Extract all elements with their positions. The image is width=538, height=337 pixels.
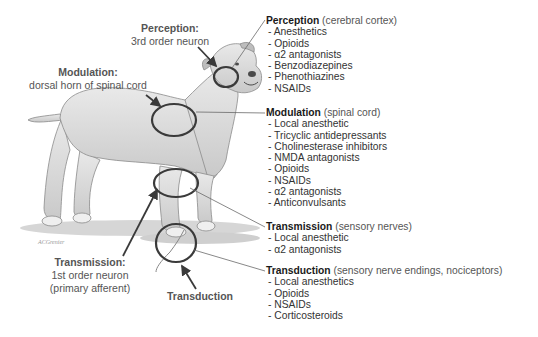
transmission-label-subtitle-2: (primary afferent) — [50, 282, 130, 294]
drug-item: - Local anesthetic — [268, 118, 387, 129]
drug-item: - Opioids — [268, 38, 397, 49]
transmission-label-subtitle-1: 1st order neuron — [51, 269, 128, 281]
drug-item: - Opioids — [268, 163, 387, 174]
drug-block-perception: Perception (cerebral cortex) - Anestheti… — [266, 15, 397, 94]
drug-item: - α2 antagonists — [268, 49, 397, 60]
drug-item: - α2 antagonists — [268, 244, 412, 255]
drug-item: - NSAIDs — [268, 175, 387, 186]
drug-item: - Anticonvulsants — [268, 197, 387, 208]
drug-item: - NSAIDs — [268, 299, 502, 310]
modulation-label-subtitle: dorsal horn of spinal cord — [29, 79, 147, 91]
transduction-arrow — [182, 266, 196, 289]
perception-label-title: Perception: — [120, 22, 220, 35]
drug-list: - Local anesthetics - Opioids - NSAIDs -… — [266, 276, 502, 321]
drug-item: - Local anesthetics — [268, 276, 502, 287]
drug-block-heading: Transduction (sensory nerve endings, noc… — [266, 265, 502, 276]
drug-block-heading: Modulation (spinal cord) — [266, 107, 387, 118]
drug-item: - Phenothiazines — [268, 71, 397, 82]
transmission-label-title: Transmission: — [40, 256, 140, 269]
drug-block-heading: Perception (cerebral cortex) — [266, 15, 397, 26]
drug-item: - Opioids — [268, 288, 502, 299]
drug-item: - Corticosteroids — [268, 310, 502, 321]
perception-label: Perception: 3rd order neuron — [120, 22, 220, 48]
drug-list: - Anesthetics - Opioids - α2 antagonists… — [266, 26, 397, 94]
drug-item: - Local anesthetic — [268, 232, 412, 243]
drug-item: - NMDA antagonists — [268, 152, 387, 163]
transduction-label: Transduction — [160, 290, 240, 303]
modulation-label-title: Modulation: — [18, 66, 158, 79]
drug-block-heading: Transmission (sensory nerves) — [266, 221, 412, 232]
drug-item: - NSAIDs — [268, 83, 397, 94]
modulation-label: Modulation: dorsal horn of spinal cord — [18, 66, 158, 92]
drug-block-transmission: Transmission (sensory nerves) - Local an… — [266, 221, 412, 255]
drug-item: - Anesthetics — [268, 26, 397, 37]
drug-item: - Tricyclic antidepressants — [268, 130, 387, 141]
drug-item: - Cholinesterase inhibitors — [268, 141, 387, 152]
drug-item: - α2 antagonists — [268, 186, 387, 197]
drug-block-modulation: Modulation (spinal cord) - Local anesthe… — [266, 107, 387, 209]
artist-signature: ACGrenier — [37, 239, 65, 245]
perception-label-subtitle: 3rd order neuron — [131, 35, 209, 47]
drug-block-transduction: Transduction (sensory nerve endings, noc… — [266, 265, 502, 321]
drug-list: - Local anesthetic - α2 antagonists — [266, 232, 412, 255]
pain-pathway-diagram: ACGrenier Perception: 3rd order neuron — [0, 0, 538, 337]
transmission-label: Transmission: 1st order neuron (primary … — [40, 256, 140, 295]
drug-item: - Benzodiazepines — [268, 60, 397, 71]
drug-list: - Local anesthetic - Tricyclic antidepre… — [266, 118, 387, 208]
transduction-label-title: Transduction — [160, 290, 240, 303]
